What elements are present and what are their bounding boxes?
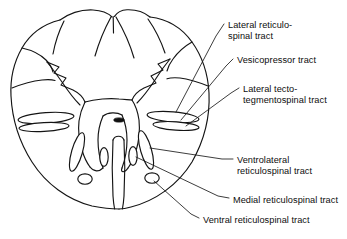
leader-lateral-tecto-tegmentospinal [186,88,239,126]
spinal-cord-outline [11,10,209,209]
label-lateral-reticulospinal-tract: Lateral reticulo- spinal tract [228,20,292,41]
leader-ventrolateral-reticulospinal [150,148,233,159]
dorsal-column-divisions [53,17,165,58]
right-medial-tract-oval [129,147,137,166]
ventral-median-fissure [112,136,125,209]
right-dorsolateral-sulcus [167,42,208,86]
label-medial-reticulospinal-tract: Medial reticulospinal tract [233,195,338,206]
leader-lateral-reticulospinal [176,24,224,112]
leader-ventral-reticulospinal [154,181,199,218]
right-ventral-tract-oval [145,173,159,183]
left-ventrolateral-tract-oval [66,131,87,172]
left-ventral-tract-oval [78,174,92,184]
right-ventrolateral-tract-oval [135,129,156,170]
spinal-cord-diagram: Lateral reticulo- spinal tract Vesicopre… [0,0,347,239]
label-ventral-reticulospinal-tract: Ventral reticulospinal tract [203,215,310,226]
central-canal [114,118,124,122]
label-vesicopressor-tract: Vesicopressor tract [237,55,316,66]
label-ventrolateral-reticulospinal-tract: Ventrolateral reticulospinal tract [237,155,312,176]
left-medial-tract-oval [100,148,108,167]
left-tract-group [18,111,109,185]
label-lateral-tecto-tegmentospinal-tract: Lateral tecto- tegmentospinal tract [243,84,327,105]
